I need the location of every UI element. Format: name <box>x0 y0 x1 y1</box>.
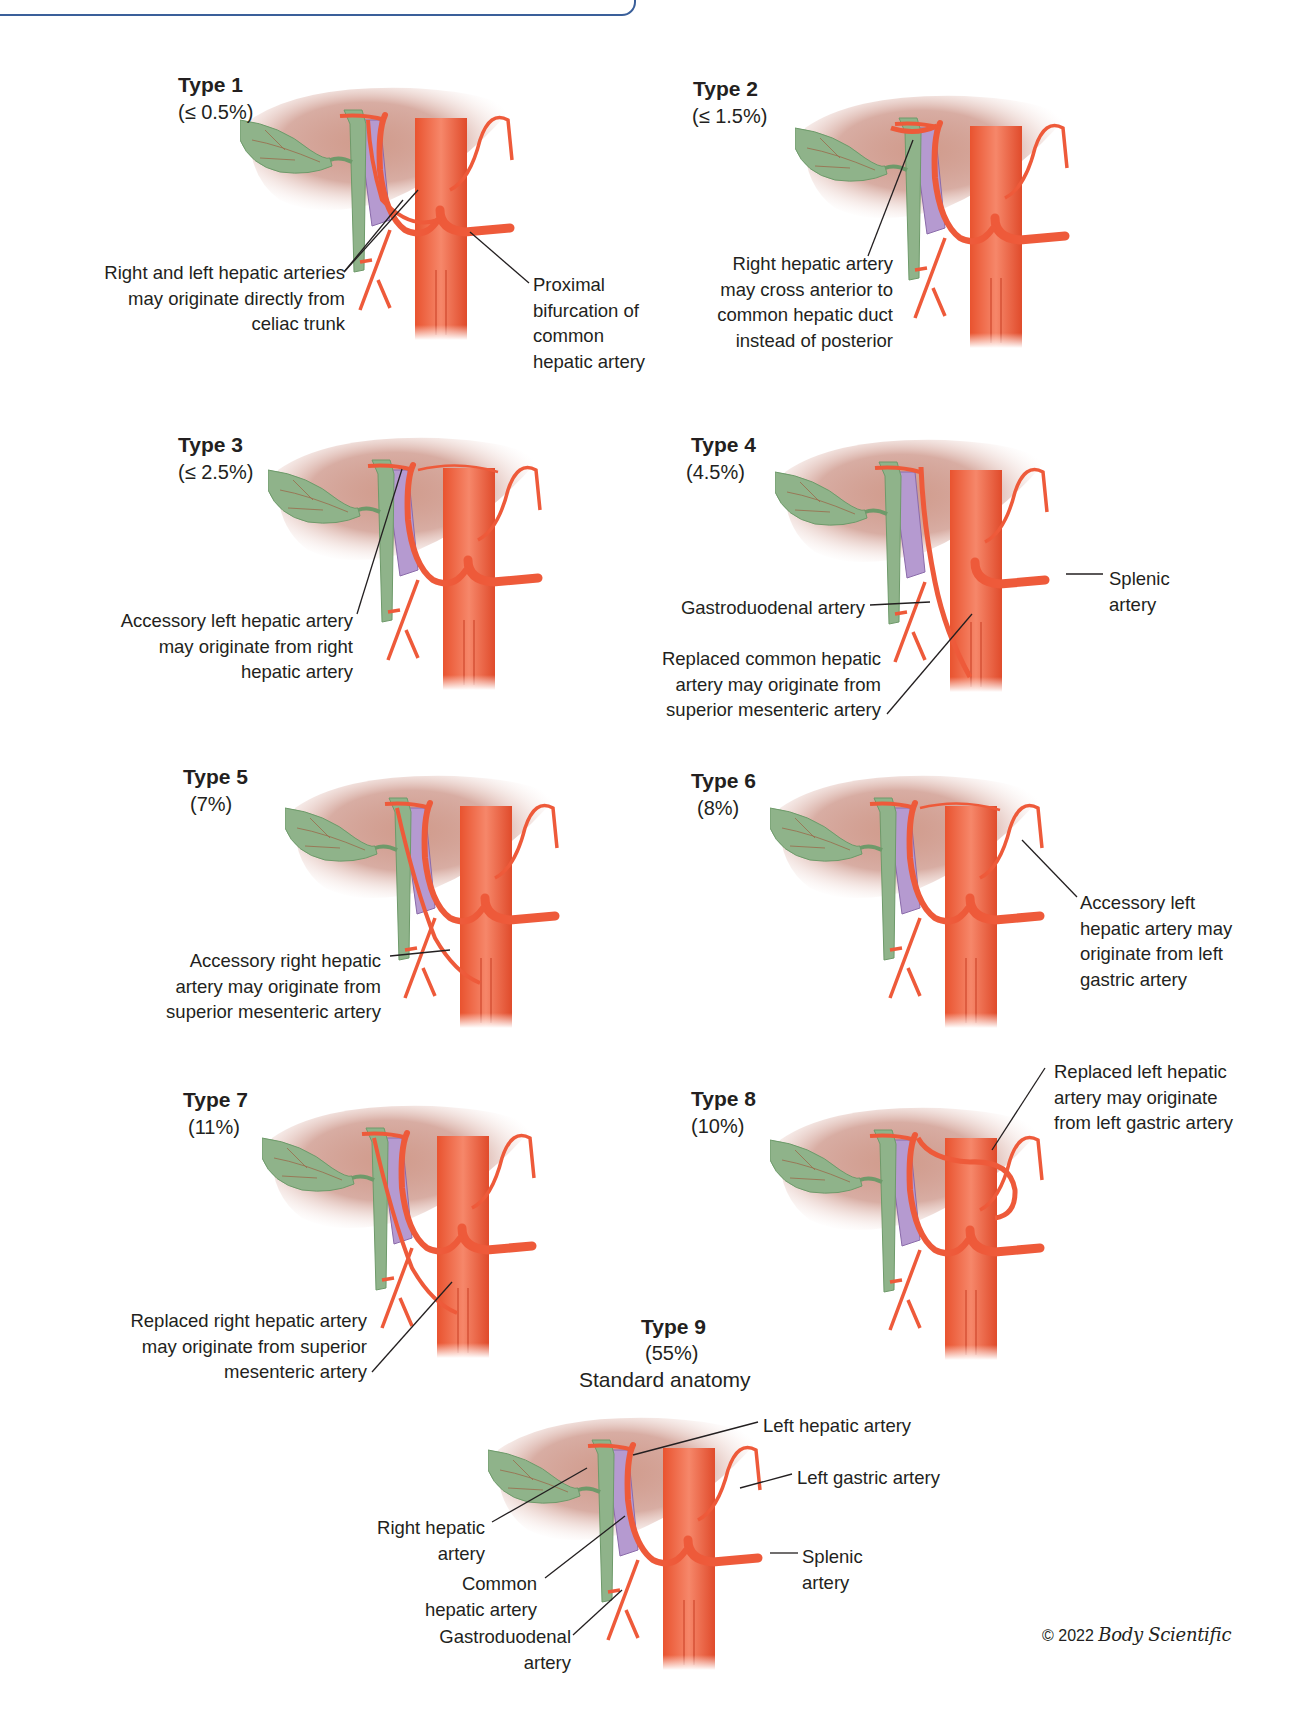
aorta-fade <box>940 1300 1002 1360</box>
type4-title: Type 4 <box>691 432 756 457</box>
label-type4-splenic: Splenic artery <box>1109 566 1170 617</box>
label-type4-gastroduodenal: Gastroduodenal artery <box>681 595 865 621</box>
type2-percentage: (≤ 1.5%) <box>692 104 767 128</box>
figure-type8 <box>770 1100 1070 1364</box>
type6-title: Type 6 <box>691 768 756 793</box>
anatomy-illustration <box>770 1100 1070 1360</box>
type7-title: Type 7 <box>183 1087 248 1112</box>
type9-subtitle: Standard anatomy <box>579 1367 751 1393</box>
label-type2-right-hepatic-cross: Right hepatic artery may cross anterior … <box>717 251 893 353</box>
type9-title: Type 9 <box>641 1314 706 1339</box>
label-type7-replaced-right-hepatic: Replaced right hepatic artery may origin… <box>130 1308 367 1385</box>
label-type4-replaced-common-hepatic: Replaced common hepatic artery may origi… <box>662 646 881 723</box>
label-type9-common-hepatic: Common hepatic artery <box>425 1571 537 1622</box>
figure-type6 <box>770 768 1070 1032</box>
aorta-fade <box>940 968 1002 1028</box>
aorta-fade <box>438 630 500 690</box>
copyright-notice: © 2022 Body Scientific <box>1042 1624 1231 1645</box>
label-type8-replaced-left-hepatic: Replaced left hepatic artery may origina… <box>1054 1059 1233 1136</box>
aorta-fade <box>658 1610 720 1670</box>
type3-percentage: (≤ 2.5%) <box>178 460 253 484</box>
type5-title: Type 5 <box>183 764 248 789</box>
type8-title: Type 8 <box>691 1086 756 1111</box>
type2-title: Type 2 <box>693 76 758 101</box>
label-type6-accessory-left-hepatic: Accessory left hepatic artery may origin… <box>1080 890 1232 992</box>
label-type9-splenic: Splenic artery <box>802 1544 863 1595</box>
anatomy-illustration <box>770 768 1070 1028</box>
label-type9-right-hepatic: Right hepatic artery <box>377 1515 485 1566</box>
type7-percentage: (11%) <box>188 1115 240 1139</box>
label-type9-left-hepatic: Left hepatic artery <box>763 1413 911 1439</box>
label-type5-accessory-right-hepatic: Accessory right hepatic artery may origi… <box>166 948 381 1025</box>
label-type1-proximal-bifurcation: Proximal bifurcation of common hepatic a… <box>533 272 645 374</box>
type1-title: Type 1 <box>178 72 243 97</box>
aorta-fade <box>945 632 1007 692</box>
label-type9-gastroduodenal: Gastroduodenal artery <box>439 1624 571 1675</box>
type5-percentage: (7%) <box>190 792 232 816</box>
type4-percentage: (4.5%) <box>686 460 745 484</box>
aorta-fade <box>432 1298 494 1358</box>
aorta-fade <box>455 968 517 1028</box>
type6-percentage: (8%) <box>697 796 739 820</box>
type3-title: Type 3 <box>178 432 243 457</box>
type1-percentage: (≤ 0.5%) <box>178 100 253 124</box>
aorta-fade <box>965 288 1027 348</box>
label-type3-accessory-left-hepatic: Accessory left hepatic artery may origin… <box>121 608 353 685</box>
brand-logo: Body Scientific <box>1098 1624 1231 1645</box>
header-box-fragment <box>0 0 636 16</box>
label-type9-left-gastric: Left gastric artery <box>797 1465 940 1491</box>
type8-percentage: (10%) <box>691 1114 744 1138</box>
aorta-fade <box>410 280 472 340</box>
type9-percentage: (55%) <box>645 1341 698 1365</box>
label-type1-right-left-hepatic: Right and left hepatic arteries may orig… <box>104 260 345 337</box>
copyright-year: © 2022 <box>1042 1627 1094 1644</box>
